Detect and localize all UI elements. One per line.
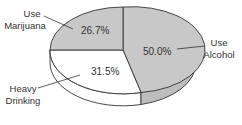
pie-top xyxy=(50,7,205,94)
label-use-alcohol-line2: Alcohol xyxy=(203,49,234,60)
pct-use-alcohol: 50.0% xyxy=(143,46,171,57)
pct-heavy-drinking: 31.5% xyxy=(91,66,119,77)
pie-chart: 26.7% 50.0% 31.5% Use Marijuana Use Alco… xyxy=(0,0,242,125)
pct-use-marijuana: 26.7% xyxy=(81,25,109,36)
label-use-marijuana-line1: Use xyxy=(24,8,41,19)
label-use-alcohol-line1: Use xyxy=(211,37,228,48)
label-heavy-drinking-line2: Drinking xyxy=(6,95,41,106)
label-use-marijuana-line2: Marijuana xyxy=(4,20,46,31)
label-heavy-drinking-line1: Heavy xyxy=(10,83,37,94)
